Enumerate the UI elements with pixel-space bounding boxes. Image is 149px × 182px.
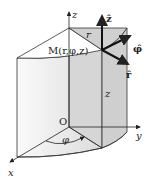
unit-phi-label: φ̂ [133, 43, 142, 54]
x-axis-label: x [8, 167, 14, 178]
point-label: M(r,φ,z) [48, 45, 88, 56]
cylindrical-coordinates-diagram: z y x O M(r,φ,z) r z φ ẑ φ̂ r̂ [0, 0, 149, 182]
origin-label: O [59, 116, 67, 127]
z-axis-label: z [71, 9, 78, 20]
angle-label: φ [62, 134, 69, 145]
unit-z-label: ẑ [106, 13, 112, 24]
height-label: z [104, 88, 111, 99]
y-axis-label: y [135, 130, 142, 141]
unit-r-label: r̂ [126, 69, 132, 80]
